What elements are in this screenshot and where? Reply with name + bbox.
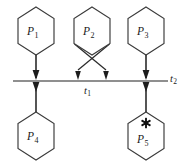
place-symbol-p2: P: [83, 25, 90, 37]
arrowhead-p3-into-t2: [143, 70, 150, 80]
place-symbol-p1: P: [27, 25, 34, 37]
place-subscript-p2: 2: [90, 31, 94, 40]
place-subscript-p5: 5: [144, 139, 148, 148]
place-symbol-p3: P: [137, 25, 144, 37]
transition-label-t1: t1: [84, 86, 91, 98]
arrowhead-p1-into-t1: [33, 70, 40, 80]
place-subscript-p1: 1: [34, 31, 38, 40]
place-label-p2: P2: [83, 26, 94, 40]
petri-net-figure: P1 P2 P3 P4 P5 t1 t2: [0, 0, 185, 167]
arrowhead-t1-into-p4: [33, 82, 40, 92]
place-subscript-p4: 4: [34, 136, 38, 145]
place-subscript-p3: 3: [144, 31, 148, 40]
place-label-p3: P3: [137, 26, 148, 40]
place-symbol-p5: P: [137, 133, 144, 145]
transition-label-t2: t2: [170, 74, 177, 86]
place-label-p1: P1: [27, 26, 38, 40]
arrowhead-t2-into-p5: [143, 82, 150, 92]
arrowhead-p2-right-into-t1: [103, 71, 109, 80]
place-label-p5: P5: [137, 134, 148, 148]
place-symbol-p4: P: [27, 130, 34, 142]
place-label-p4: P4: [27, 131, 38, 145]
transition-subscript-t1: 1: [87, 89, 91, 98]
arrowhead-p2-left-into-t1: [75, 71, 81, 80]
transition-subscript-t2: 2: [173, 77, 177, 86]
